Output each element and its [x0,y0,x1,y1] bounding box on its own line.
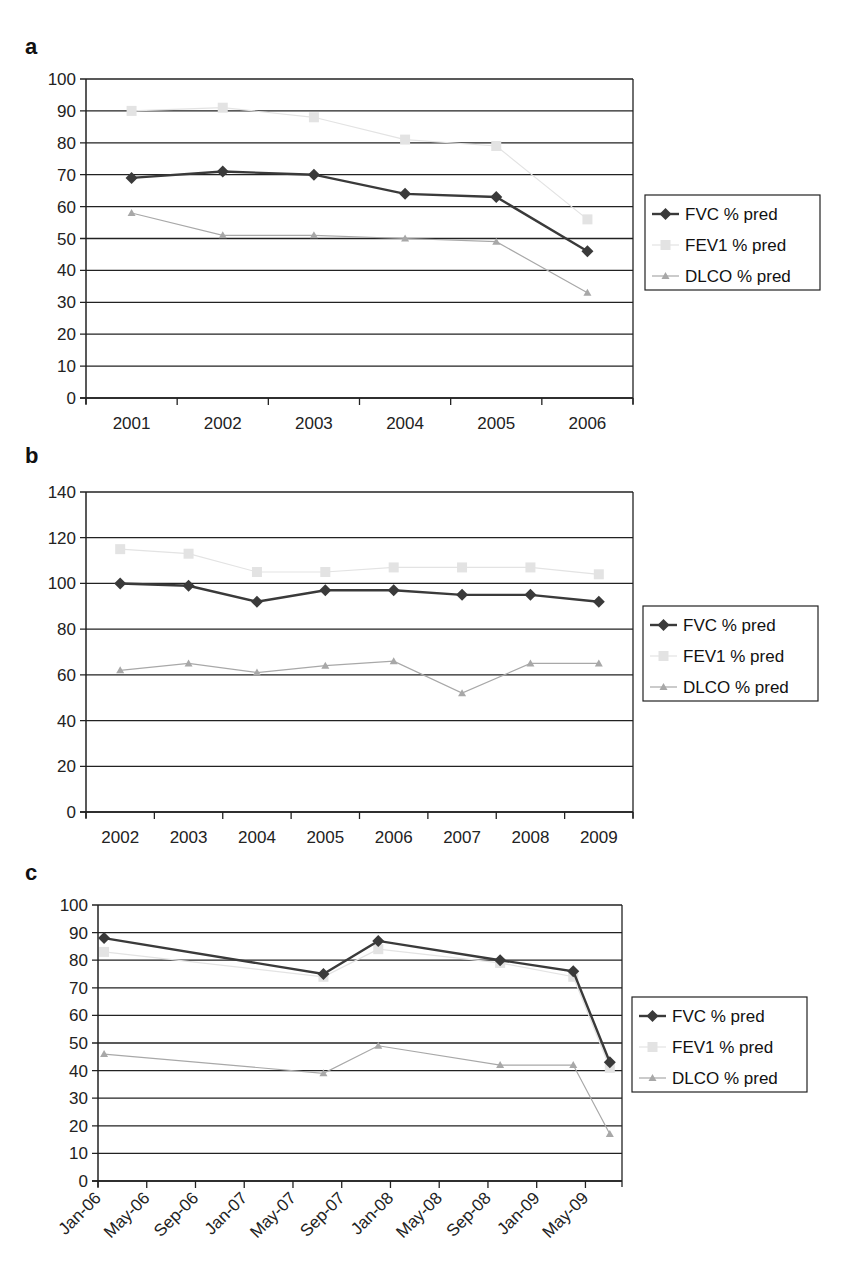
y-tick-label: 140 [48,483,76,502]
fev1-square-marker [457,562,467,572]
figure: a010203040506070809010020012002200320042… [0,0,860,1283]
fev1-square-marker [218,103,228,113]
fev1-series [99,944,615,1073]
x-tick-label: 2005 [477,414,515,433]
y-tick-label: 30 [69,1089,88,1108]
dlco-triangle-marker [100,1050,108,1057]
fvc-diamond-marker [593,596,605,608]
y-tick-label: 50 [69,1034,88,1053]
legend-label-fev1: FEV1 % pred [683,647,784,666]
y-tick-label: 120 [48,529,76,548]
x-tick-label: 2007 [443,828,481,847]
y-tick-label: 0 [67,803,76,822]
panel-label: a [25,34,38,59]
y-tick-label: 90 [69,924,88,943]
fev1-square-marker [320,567,330,577]
fev1-square-marker [252,567,262,577]
y-tick-label: 60 [57,666,76,685]
fvc-diamond-marker [319,584,331,596]
x-tick-label: Sep-07 [296,1188,348,1240]
fev1-square-marker [99,947,109,957]
y-tick-label: 20 [57,325,76,344]
fev1-line [132,108,588,220]
dlco-series [128,209,592,296]
y-tick-label: 60 [57,198,76,217]
fev1-square-marker [115,544,125,554]
x-tick-label: 2008 [512,828,550,847]
x-tick-label: Sep-08 [443,1188,495,1240]
y-tick-label: 50 [57,230,76,249]
y-tick-label: 40 [57,261,76,280]
y-tick-label: 80 [57,620,76,639]
fvc-series [114,577,605,607]
x-tick-label: 2001 [113,414,151,433]
x-tick-label: Jan-08 [347,1188,397,1238]
y-tick-label: 90 [57,102,76,121]
chart-panel-b: b020406080100120140200220032004200520062… [25,443,818,847]
fev1-square-marker [400,135,410,145]
y-tick-label: 40 [57,712,76,731]
dlco-triangle-marker [390,657,398,664]
x-tick-label: May-08 [393,1188,447,1242]
fev1-square-marker [309,112,319,122]
x-tick-label: May-07 [246,1188,300,1242]
x-tick-label: Jan-07 [201,1188,251,1238]
x-tick-label: 2003 [170,828,208,847]
dlco-line [132,213,588,293]
fvc-diamond-marker [456,589,468,601]
dlco-series [100,1042,614,1137]
y-tick-label: 20 [69,1117,88,1136]
fev1-square-marker [525,562,535,572]
chart-panel-c: c0102030405060708090100Jan-06May-06Sep-0… [25,860,807,1242]
y-tick-label: 100 [48,70,76,89]
fvc-diamond-marker [524,589,536,601]
dlco-series [116,657,603,696]
x-tick-label: 2004 [238,828,276,847]
fvc-diamond-marker [581,245,593,257]
fev1-square-marker [184,549,194,559]
x-tick-label: 2002 [204,414,242,433]
legend-label-fev1: FEV1 % pred [685,236,786,255]
legend-label-dlco: DLCO % pred [672,1069,778,1088]
legend: FVC % predFEV1 % predDLCO % pred [632,997,807,1092]
panel-label: c [25,860,37,885]
fvc-series [126,166,594,258]
fvc-line [132,172,588,252]
dlco-triangle-marker [128,209,136,216]
legend-label-dlco: DLCO % pred [683,678,789,697]
fev1-square-marker [491,141,501,151]
fev1-legend-square-marker [659,651,669,661]
dlco-triangle-marker [606,1130,614,1137]
fvc-diamond-marker [251,596,263,608]
legend-label-dlco: DLCO % pred [685,267,791,286]
x-tick-label: 2003 [295,414,333,433]
fev1-square-marker [582,214,592,224]
x-tick-label: 2002 [101,828,139,847]
dlco-line [104,1046,610,1134]
x-tick-label: 2006 [569,414,607,433]
fev1-series [115,544,604,579]
y-tick-label: 80 [57,134,76,153]
legend-label-fvc: FVC % pred [685,205,778,224]
x-tick-label: Jan-06 [55,1188,105,1238]
fvc-diamond-marker [114,577,126,589]
y-tick-label: 70 [69,979,88,998]
y-tick-label: 70 [57,166,76,185]
legend-label-fvc: FVC % pred [683,616,776,635]
legend-label-fvc: FVC % pred [672,1007,765,1026]
dlco-triangle-marker [458,689,466,696]
fev1-square-marker [594,569,604,579]
x-tick-label: 2009 [580,828,618,847]
fvc-diamond-marker [126,172,138,184]
fvc-series [98,932,616,1068]
y-tick-label: 80 [69,951,88,970]
legend-label-fev1: FEV1 % pred [672,1038,773,1057]
x-tick-label: May-06 [100,1188,154,1242]
y-tick-label: 40 [69,1062,88,1081]
y-tick-label: 100 [48,574,76,593]
legend: FVC % predFEV1 % predDLCO % pred [645,195,820,290]
y-tick-label: 60 [69,1006,88,1025]
fvc-diamond-marker [217,166,229,178]
fvc-diamond-marker [490,191,502,203]
y-tick-label: 10 [69,1144,88,1163]
